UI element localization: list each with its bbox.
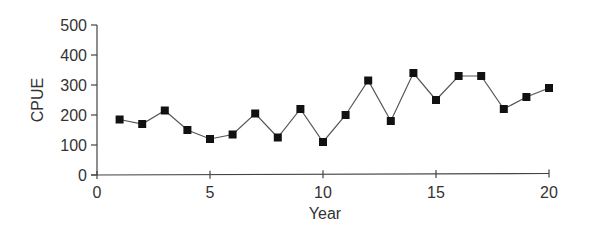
y-tick-label: 500 [60, 17, 87, 34]
data-point-marker [229, 131, 237, 139]
y-axis-title: CPUE [29, 78, 46, 122]
data-point-marker [477, 72, 485, 80]
data-point-marker [409, 69, 417, 77]
x-axis-line [91, 174, 549, 176]
x-tick-label: 10 [314, 184, 332, 201]
x-tick-label: 15 [427, 184, 445, 201]
x-axis-title: Year [309, 205, 342, 222]
data-point-marker [116, 116, 124, 124]
y-tick-label: 200 [60, 107, 87, 124]
cpue-line-chart: 0100200300400500 05101520 CPUE Year [0, 0, 589, 228]
x-tick-label: 0 [93, 184, 102, 201]
data-point-marker [545, 84, 553, 92]
data-point-marker [500, 105, 508, 113]
x-tick-label: 20 [540, 184, 558, 201]
y-tick-label: 300 [60, 77, 87, 94]
data-series [116, 69, 553, 146]
data-point-marker [455, 72, 463, 80]
data-point-marker [342, 111, 350, 119]
data-point-marker [274, 134, 282, 142]
data-point-marker [387, 117, 395, 125]
x-tick-label: 5 [206, 184, 215, 201]
data-point-marker [206, 135, 214, 143]
data-point-marker [138, 120, 146, 128]
y-tick-label: 100 [60, 137, 87, 154]
y-tick-label: 400 [60, 47, 87, 64]
data-point-marker [296, 105, 304, 113]
x-axis: 05101520 [91, 170, 558, 202]
data-point-marker [364, 77, 372, 85]
data-point-marker [161, 107, 169, 115]
data-point-marker [319, 138, 327, 146]
y-axis: 0100200300400500 [60, 17, 97, 184]
data-point-marker [432, 96, 440, 104]
y-tick-label: 0 [78, 167, 87, 184]
data-point-marker [183, 126, 191, 134]
data-point-marker [251, 110, 259, 118]
data-point-marker [522, 93, 530, 101]
